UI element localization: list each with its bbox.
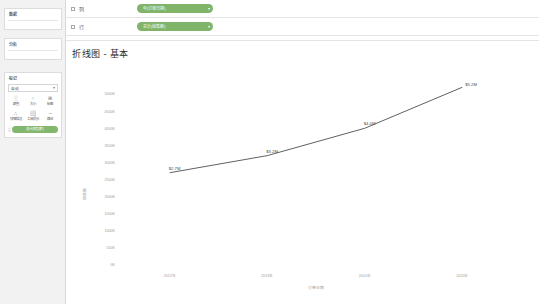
marks-button-color[interactable]: ░ 颜色 [7, 95, 24, 109]
rows-shelf-pill[interactable]: 总计(销售额) [137, 22, 213, 31]
detail-icon: ∴ [14, 110, 17, 117]
left-sidebar: 数据 分析 标记 自动 ▾ ░ 颜色 ○ 大小 [0, 0, 66, 304]
shelf-handle-icon [71, 25, 75, 29]
y-axis-tick-label: 500K [107, 246, 116, 250]
data-pane[interactable]: 数据 [4, 8, 62, 30]
shelf-handle-icon [71, 7, 75, 11]
marks-pill-row: ░ 总计(销售额) [8, 126, 58, 133]
x-axis-tick-label: 2014年 [359, 273, 371, 278]
columns-shelf[interactable]: 列 年(订单日期) [66, 0, 539, 18]
marks-button-label: 颜色 [13, 102, 19, 107]
marks-card-title: 标记 [5, 73, 61, 82]
marks-button-label: 详细信息 [10, 117, 22, 122]
y-axis-tick-label: 0K [111, 263, 116, 267]
mark-type-select[interactable]: 自动 ▾ [8, 84, 58, 92]
y-axis-tick-label: 4500K [105, 110, 116, 114]
marks-button-label: 路径 [47, 117, 53, 122]
tooltip-icon: ⬜ [30, 110, 36, 117]
y-axis-tick-label: 3500K [105, 144, 116, 148]
y-axis-tick-label: 3000K [105, 161, 116, 165]
marks-button-label: 工具提示 [27, 117, 39, 122]
marks-measure-pill[interactable]: 总计(销售额) [12, 126, 58, 133]
data-point-label: $4.0M [364, 121, 376, 126]
y-axis-title: 销售额 [82, 188, 87, 200]
data-point-label: $3.2M [266, 149, 278, 154]
columns-shelf-label: 列 [79, 5, 99, 12]
line-chart[interactable]: 0K500K1000K1500K2000K2500K3000K3500K4000… [66, 65, 539, 304]
marks-buttons-grid: ░ 颜色 ○ 大小 ⊞ 标签 ∴ 详细信息 ⬜ 工具提示 [7, 95, 59, 124]
y-axis-tick-label: 1000K [105, 229, 116, 233]
chart-title: 折线图 - 基本 [72, 47, 129, 60]
size-icon: ○ [31, 95, 34, 102]
chart-svg: 0K500K1000K1500K2000K2500K3000K3500K4000… [66, 65, 539, 304]
marks-button-detail[interactable]: ∴ 详细信息 [7, 110, 24, 124]
marks-card[interactable]: 标记 自动 ▾ ░ 颜色 ○ 大小 ⊞ 标签 ∴ [4, 72, 62, 138]
mark-type-label: 自动 [11, 86, 19, 91]
x-axis-tick-label: 2015年 [456, 273, 468, 278]
data-point-label: $2.7M [169, 166, 181, 171]
color-swatch-icon: ░ [8, 127, 11, 132]
y-axis-tick-label: 2000K [105, 195, 116, 199]
marks-button-size[interactable]: ○ 大小 [24, 95, 41, 109]
divider [8, 50, 58, 51]
series-line-path[interactable] [170, 87, 463, 172]
analytics-pane[interactable]: 分析 [4, 38, 62, 60]
color-icon: ░ [14, 95, 18, 102]
y-axis-tick-label: 4000K [105, 127, 116, 131]
y-axis-tick-label: 2500K [105, 178, 116, 182]
marks-button-tooltip[interactable]: ⬜ 工具提示 [24, 110, 41, 124]
data-pane-title: 数据 [5, 9, 61, 18]
marks-button-path[interactable]: ─ 路径 [42, 110, 59, 124]
marks-button-label: 大小 [30, 102, 36, 107]
y-axis-tick-label: 1500K [105, 212, 116, 216]
marks-button-label: 标签 [47, 102, 53, 107]
marks-button-label[interactable]: ⊞ 标签 [42, 95, 59, 109]
x-axis-title: 订单日期 [308, 285, 324, 290]
divider [8, 20, 58, 21]
analytics-pane-title: 分析 [5, 39, 61, 48]
tableau-window: 数据 分析 标记 自动 ▾ ░ 颜色 ○ 大小 [0, 0, 539, 304]
x-axis-tick-label: 2013年 [261, 273, 273, 278]
y-axis-tick-label: 5000K [105, 92, 116, 96]
columns-shelf-pill[interactable]: 年(订单日期) [137, 4, 213, 13]
path-icon: ─ [49, 110, 53, 117]
chevron-down-icon: ▾ [53, 86, 55, 90]
rows-shelf-label: 行 [79, 23, 99, 30]
shelf-area: 列 年(订单日期) 行 总计(销售额) [66, 0, 539, 40]
label-icon: ⊞ [48, 95, 52, 102]
x-axis-tick-label: 2012年 [164, 273, 176, 278]
rows-shelf[interactable]: 行 总计(销售额) [66, 18, 539, 36]
data-point-label: $5.2M [465, 82, 477, 87]
visualization-canvas[interactable]: 折线图 - 基本 0K500K1000K1500K2000K2500K3000K… [66, 40, 539, 304]
